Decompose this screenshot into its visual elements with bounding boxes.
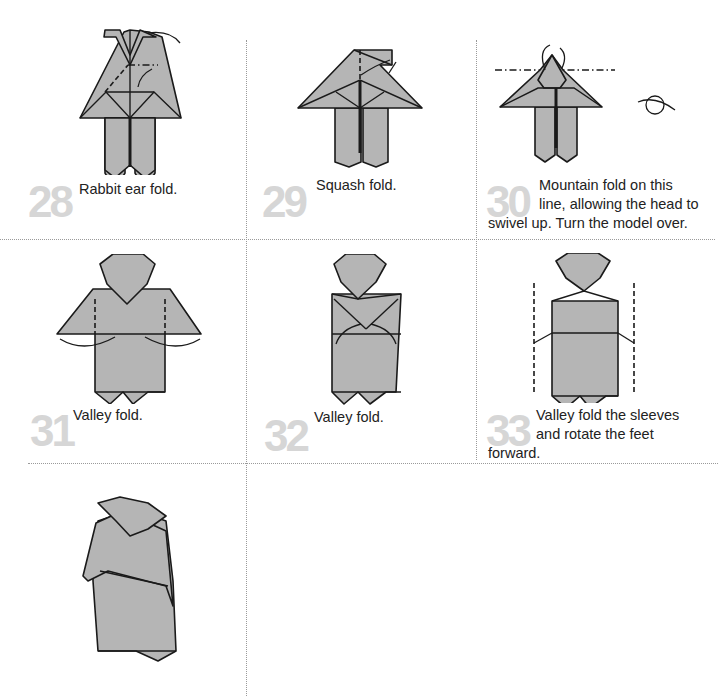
step-caption-line-3: forward. bbox=[488, 444, 540, 463]
step-30: 30 Mountain fold on this line, allowing … bbox=[476, 0, 715, 239]
step-number: 32 bbox=[264, 414, 307, 458]
step-caption-line-1: Mountain fold on this bbox=[539, 176, 673, 195]
step-29: 29 Squash fold. bbox=[246, 0, 476, 239]
step-caption-line-2: and rotate the feet bbox=[536, 425, 654, 444]
step-28: 28 Rabbit ear fold. bbox=[0, 0, 246, 239]
step-caption: Valley fold. bbox=[314, 408, 384, 427]
step-number: 28 bbox=[28, 180, 71, 224]
step-32: 32 Valley fold. bbox=[246, 239, 476, 463]
step-number: 29 bbox=[262, 180, 305, 224]
final-model-diagram bbox=[78, 491, 188, 666]
step-31-diagram bbox=[55, 254, 205, 404]
step-29-diagram bbox=[296, 45, 426, 170]
step-final-model bbox=[0, 463, 246, 696]
step-31: 31 Valley fold. bbox=[0, 239, 246, 463]
step-caption-line-1: Valley fold the sleeves bbox=[536, 406, 679, 425]
step-33: 33 Valley fold the sleeves and rotate th… bbox=[476, 239, 715, 463]
step-caption-line-2: line, allowing the head to bbox=[539, 195, 699, 214]
step-number: 31 bbox=[30, 409, 73, 453]
step-28-diagram bbox=[70, 25, 190, 175]
step-caption: Squash fold. bbox=[316, 176, 397, 195]
step-32-diagram bbox=[286, 254, 446, 409]
step-caption: Valley fold. bbox=[73, 406, 143, 425]
step-caption-line-3: swivel up. Turn the model over. bbox=[488, 214, 688, 233]
step-30-diagram bbox=[490, 40, 680, 165]
step-caption: Rabbit ear fold. bbox=[79, 180, 177, 199]
step-33-diagram bbox=[526, 253, 676, 403]
